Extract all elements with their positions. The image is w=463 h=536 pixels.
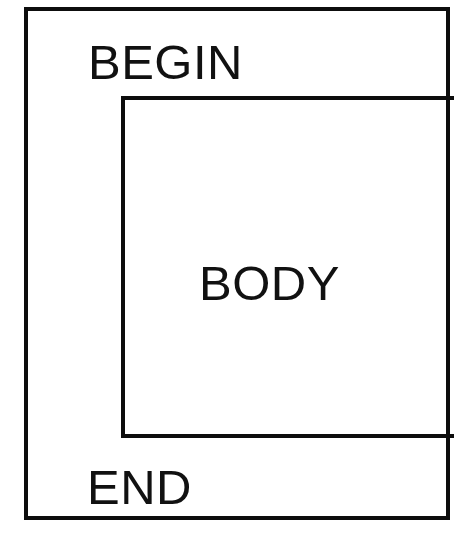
label-begin: BEGIN — [88, 38, 243, 87]
label-body: BODY — [199, 259, 340, 308]
label-end: END — [87, 463, 192, 512]
diagram-canvas: BEGIN BODY END — [0, 0, 463, 536]
